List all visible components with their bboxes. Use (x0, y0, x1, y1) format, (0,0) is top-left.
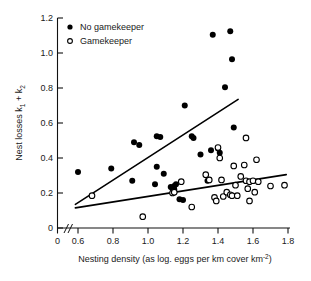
data-point (140, 214, 146, 220)
y-tick-label-1.2: 1.2 (40, 13, 53, 23)
y-tick-label-1.0: 1.0 (40, 48, 53, 58)
x-tick-label-0.8: 0.8 (107, 236, 120, 246)
fit-line-no-gamekeeper (75, 99, 238, 204)
data-point (198, 152, 204, 158)
data-point (219, 177, 225, 183)
y-ticks-group: 0 0.2 0.4 0.6 0.8 1.0 1.2 (40, 13, 63, 233)
data-point (208, 147, 214, 153)
data-point (203, 172, 209, 178)
y-axis-title-mid: + k (14, 88, 24, 103)
data-point (241, 162, 247, 168)
y-tick-label-0.6: 0.6 (40, 118, 53, 128)
data-point (131, 139, 137, 145)
x-tick-label-0: 0 (55, 236, 60, 246)
data-point (245, 186, 251, 192)
data-point (157, 134, 163, 140)
data-point (180, 197, 186, 203)
data-point (108, 166, 114, 172)
x-axis-title: Nesting density (as log. eggs per km cov… (78, 253, 271, 265)
y-tick-label-0.2: 0.2 (40, 188, 53, 198)
data-point (233, 182, 239, 188)
data-point (217, 155, 223, 161)
data-point (210, 32, 216, 38)
y-tick-label-0: 0 (48, 223, 53, 233)
data-point (191, 135, 197, 141)
x-tick-label-1.8: 1.8 (282, 236, 295, 246)
x-axis-title-tail: ) (269, 254, 272, 264)
data-point (231, 163, 237, 169)
x-tick-label-1.0: 1.0 (142, 236, 155, 246)
data-point (243, 135, 249, 141)
x-ticks-group: 0 0.6 0.8 1.0 1.2 1.4 1.6 1.8 (55, 228, 294, 246)
data-point (238, 174, 244, 180)
legend-marker-no-gamekeeper (67, 24, 72, 29)
data-point (136, 142, 142, 148)
data-point (227, 28, 233, 34)
x-tick-label-0.6: 0.6 (72, 236, 85, 246)
data-point (171, 189, 177, 195)
x-tick-label-1.6: 1.6 (247, 236, 260, 246)
data-point (215, 145, 221, 151)
legend: No gamekeeper Gamekeeper (67, 22, 144, 46)
data-point (222, 84, 228, 90)
axes-group (58, 18, 291, 233)
y-axis-title-sub2: 2 (19, 85, 26, 89)
data-point (89, 193, 95, 199)
plot-svg: 0 0.2 0.4 0.6 0.8 1.0 1.2 0 0.6 0.8 1.0 … (0, 0, 311, 281)
legend-marker-gamekeeper (68, 39, 73, 44)
data-point (252, 189, 258, 195)
data-point (161, 171, 167, 177)
data-point (250, 178, 256, 184)
y-axis-title-main: Nest losses k (14, 107, 24, 161)
data-point (152, 181, 158, 187)
legend-label-no-gamekeeper: No gamekeeper (80, 22, 144, 32)
data-point (247, 198, 253, 204)
series-gamekeeper-points (89, 135, 287, 219)
y-axis-title: Nest losses k1 + k2 (14, 85, 26, 161)
x-axis-title-main: Nesting density (as log. eggs per km cov… (78, 254, 263, 264)
y-tick-label-0.8: 0.8 (40, 83, 53, 93)
data-point (229, 56, 235, 62)
data-point (189, 204, 195, 210)
data-point (182, 103, 188, 109)
data-point (213, 198, 219, 204)
data-point (254, 157, 260, 163)
x-tick-label-1.2: 1.2 (177, 236, 190, 246)
scatter-plot-figure: 0 0.2 0.4 0.6 0.8 1.0 1.2 0 0.6 0.8 1.0 … (0, 0, 311, 281)
data-point (234, 193, 240, 199)
data-point (255, 179, 261, 185)
data-point (206, 177, 212, 183)
y-tick-label-0.4: 0.4 (40, 153, 53, 163)
data-point (154, 164, 160, 170)
data-point (75, 169, 81, 175)
data-point (129, 178, 135, 184)
data-point (178, 179, 184, 185)
x-tick-label-1.4: 1.4 (212, 236, 225, 246)
legend-label-gamekeeper: Gamekeeper (80, 36, 132, 46)
data-point (231, 124, 237, 130)
data-point (282, 182, 288, 188)
data-point (268, 183, 274, 189)
